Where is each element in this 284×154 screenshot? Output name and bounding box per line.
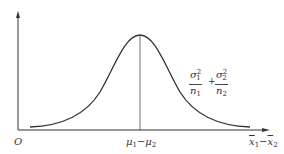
- x-axis-arrow-icon: [262, 128, 270, 132]
- x-sub2: 2: [273, 141, 277, 149]
- variance-term-2: σ22 n2: [215, 67, 228, 100]
- mean-difference-label: μ1−μ2: [126, 136, 156, 149]
- y-axis-arrow-icon: [16, 11, 20, 18]
- term1-denominator: n1: [190, 85, 201, 100]
- origin-label: O: [14, 136, 22, 147]
- x-minus: −: [259, 136, 267, 147]
- term1-numerator: σ21: [189, 67, 202, 85]
- term2-numerator: σ22: [215, 67, 228, 85]
- x-axis-label: x1−x2: [249, 136, 278, 149]
- distribution-diagram: [0, 0, 284, 154]
- sub2: 2: [152, 141, 156, 149]
- term2-denominator: n2: [216, 85, 227, 100]
- variance-term-1: σ21 n1: [189, 67, 202, 100]
